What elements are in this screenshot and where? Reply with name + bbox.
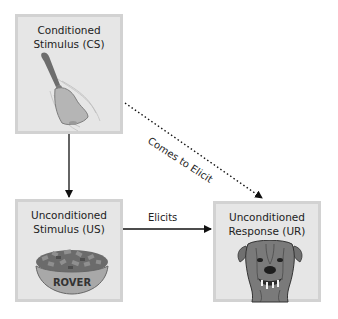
- ur-title-line2: Response (UR): [216, 224, 318, 238]
- cs-title-line1: Conditioned: [18, 23, 120, 37]
- bell-icon: [38, 51, 108, 133]
- ur-title-line1: Unconditioned: [216, 210, 318, 224]
- edge-label-elicits: Elicits: [148, 212, 177, 223]
- conditioned-stimulus-box: Conditioned Stimulus (CS): [15, 14, 123, 134]
- cs-title: Conditioned Stimulus (CS): [18, 23, 120, 51]
- us-title-line1: Unconditioned: [18, 208, 120, 222]
- bowl-label: ROVER: [53, 277, 92, 288]
- unconditioned-stimulus-box: Unconditioned Stimulus (US) ROVER: [15, 199, 123, 302]
- unconditioned-response-box: Unconditioned Response (UR): [213, 201, 321, 302]
- cs-title-line2: Stimulus (CS): [18, 37, 120, 51]
- arrow-cs-to-ur-dotted: [125, 103, 262, 198]
- ur-title: Unconditioned Response (UR): [216, 210, 318, 238]
- drooling-dog-icon: [236, 240, 304, 304]
- us-title-line2: Stimulus (US): [18, 222, 120, 236]
- us-title: Unconditioned Stimulus (US): [18, 208, 120, 236]
- dog-food-bowl-icon: ROVER: [34, 246, 110, 296]
